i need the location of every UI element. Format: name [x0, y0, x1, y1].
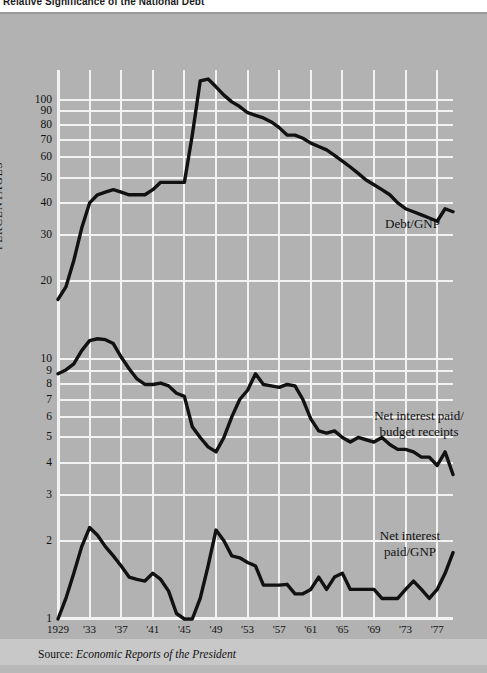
- x-tick-label: '77: [417, 623, 457, 635]
- y-tick-label: 9: [18, 365, 52, 377]
- figure-page: Relative Significance of the National De…: [0, 0, 487, 673]
- y-tick-label: 90: [18, 105, 52, 117]
- annotation-interest-receipts-line1: Net interest paid/: [349, 408, 487, 423]
- source-line: Source: Economic Reports of the Presiden…: [38, 648, 236, 660]
- series-line: [58, 79, 453, 299]
- source-prefix: Source:: [38, 648, 73, 660]
- annotation-debt-gnp: Debt/GNP: [385, 216, 440, 231]
- y-tick-label: 60: [18, 151, 52, 163]
- y-tick-label: 100: [18, 94, 52, 106]
- y-tick-label: 10: [18, 353, 52, 365]
- y-tick-label: 5: [18, 431, 52, 443]
- annotation-interest-gnp-line2: paid/GNP: [345, 544, 475, 559]
- y-tick-label: 70: [18, 134, 52, 146]
- source-title: Economic Reports of the President: [76, 648, 236, 660]
- y-tick-label: 6: [18, 411, 52, 423]
- y-tick-label: 30: [18, 229, 52, 241]
- running-head-text: Relative Significance of the National De…: [3, 0, 204, 7]
- annotation-interest-receipts-line2: budget receipts: [349, 424, 487, 439]
- y-tick-label: 50: [18, 172, 52, 184]
- y-tick-label: 8: [18, 378, 52, 390]
- y-tick-label: 80: [18, 119, 52, 131]
- y-tick-label: 7: [18, 394, 52, 406]
- series-line: [58, 339, 453, 475]
- y-tick-label: 40: [18, 197, 52, 209]
- y-tick-label: 20: [18, 275, 52, 287]
- y-tick-label: 3: [18, 489, 52, 501]
- annotation-interest-gnp-line1: Net interest: [345, 528, 475, 543]
- y-tick-label: 2: [18, 535, 52, 547]
- chart-figure: PERCENTAGES 1009080706050403020109876543…: [0, 14, 487, 639]
- y-axis-title: PERCENTAGES: [0, 161, 4, 250]
- figure-bottom-strip-2: [0, 665, 487, 673]
- y-tick-label: 4: [18, 457, 52, 469]
